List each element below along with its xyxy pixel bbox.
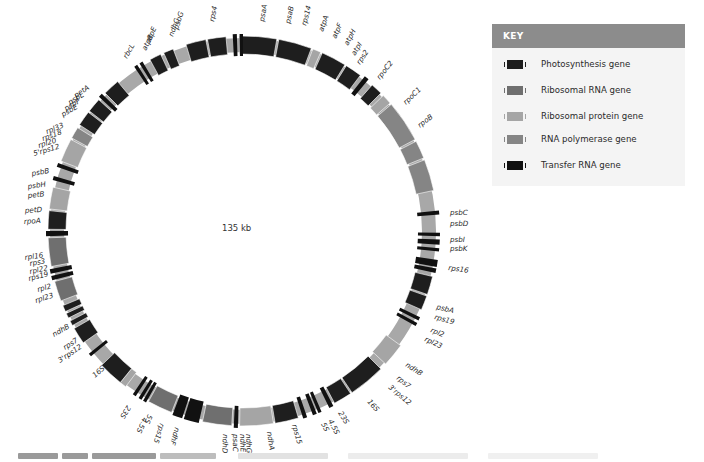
gene-label: 16S — [366, 397, 382, 414]
gene-label: rps14 — [299, 4, 313, 26]
gene-label: psbI — [449, 235, 465, 244]
ribosomal-protein-swatch-icon — [504, 112, 526, 121]
legend-item-ribosomal-rna: Ribosomal RNA gene — [504, 83, 631, 97]
gene-label: atpE — [144, 25, 159, 44]
gene-label: ndhF — [168, 426, 182, 446]
genome-size-label: 135 kb — [222, 223, 251, 233]
rna-polymerase-swatch-icon — [504, 135, 526, 144]
legend-label: RNA polymerase gene — [541, 134, 637, 144]
gene-label: psbB — [30, 166, 50, 178]
gene-label: rpoC2 — [374, 58, 395, 81]
gene-label: psbG — [171, 10, 186, 32]
gene-label: psbK — [449, 244, 469, 253]
gene-label: ndhB — [404, 360, 425, 378]
photosynthesis-gene-block — [207, 37, 227, 57]
legend-item-transfer-rna: Transfer RNA gene — [504, 158, 621, 172]
photosynthesis-swatch-icon — [504, 60, 526, 69]
photosynthesis-gene-block — [48, 211, 67, 230]
transfer-rna-swatch-icon — [504, 161, 526, 170]
photosynthesis-gene-block — [272, 401, 298, 424]
rprotein-gene-block — [240, 406, 274, 426]
legend-title: KEY — [492, 24, 685, 48]
gene-label: 23S — [336, 409, 351, 426]
legend-label: Photosynthesis gene — [541, 59, 630, 69]
gene-label: psaB — [283, 5, 296, 25]
trna-gene-block — [418, 233, 440, 237]
gene-label: psbC — [449, 208, 468, 217]
gene-label: atpF — [330, 21, 345, 40]
photosynthesis-gene-block — [276, 39, 312, 65]
gene-label: rpoC1 — [401, 85, 423, 106]
trna-gene-block — [234, 406, 239, 428]
trna-gene-block — [46, 231, 68, 236]
gene-label: rpl23 — [34, 290, 55, 304]
gene-label: ndhA — [265, 431, 277, 451]
gene-label: petB — [26, 189, 45, 200]
gene-label: 23S — [118, 404, 133, 421]
legend-label: Ribosomal protein gene — [541, 111, 643, 121]
gene-label: ndhB — [51, 322, 72, 339]
legend-item-ribosomal-protein: Ribosomal protein gene — [504, 109, 643, 123]
gene-label: 4.5S — [134, 416, 149, 435]
gene-label: rps4 — [207, 5, 219, 23]
gene-label: ndhD — [220, 434, 230, 454]
trna-gene-block — [240, 34, 243, 56]
legend-item-rna-polymerase: RNA polymerase gene — [504, 132, 637, 146]
gene-label: rps15 — [290, 423, 304, 446]
rrna-gene-block — [202, 404, 232, 426]
gene-label: rpoB — [416, 112, 435, 130]
rnapol-gene-block — [408, 160, 434, 194]
figure-caption — [18, 453, 618, 460]
rprotein-gene-block — [49, 187, 70, 211]
photosynthesis-gene-block — [240, 36, 277, 57]
gene-label: rbcL — [121, 42, 137, 60]
gene-label: psaA — [257, 3, 269, 23]
legend-label: Transfer RNA gene — [541, 160, 621, 170]
gene-label: atpA — [316, 14, 330, 33]
gene-label: psbD — [449, 219, 469, 228]
legend-key: KEY Photosynthesis gene Ribosomal RNA ge… — [492, 24, 685, 186]
gene-label: petD — [24, 205, 43, 215]
trna-gene-block — [418, 239, 440, 245]
gene-label: rps15 — [152, 422, 167, 445]
gene-label: psaC — [231, 433, 240, 452]
trna-gene-block — [233, 34, 238, 56]
gene-label: rps16 — [448, 263, 470, 275]
rrna-gene-block — [48, 237, 69, 266]
ribosomal-rna-swatch-icon — [504, 86, 526, 95]
legend-item-photosynthesis: Photosynthesis gene — [504, 57, 630, 71]
gene-label: rpoA — [24, 216, 42, 226]
rnapol-gene-block — [378, 104, 416, 148]
legend-label: Ribosomal RNA gene — [541, 85, 631, 95]
